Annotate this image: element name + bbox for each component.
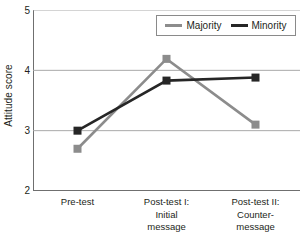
x-tick-label-pre-test: Pre-test bbox=[33, 196, 122, 209]
legend-item-minority: Minority bbox=[231, 21, 287, 31]
y-tick-label-4: 4 bbox=[16, 66, 30, 76]
legend: Majority Minority bbox=[156, 15, 296, 36]
series-lines bbox=[78, 59, 256, 149]
y-tick-label-5: 5 bbox=[16, 6, 30, 16]
y-tick-label-3: 3 bbox=[16, 126, 30, 136]
x-tick-label-post-test-2: Post-test II: Counter- message bbox=[211, 196, 300, 234]
line-chart: Attitude score 5 4 3 2 Pre-test Post-tes… bbox=[0, 0, 308, 244]
plot-canvas bbox=[33, 10, 300, 191]
y-axis-tick-labels: 5 4 3 2 bbox=[14, 0, 30, 244]
legend-swatch-minority bbox=[231, 24, 248, 27]
legend-swatch-majority bbox=[165, 24, 182, 27]
legend-label-majority: Majority bbox=[186, 21, 221, 31]
y-axis-title-text: Attitude score bbox=[3, 64, 14, 127]
y-tick-label-2: 2 bbox=[16, 186, 30, 196]
x-tick-label-post-test-1: Post-test I: Initial message bbox=[122, 196, 211, 234]
series-markers bbox=[74, 55, 260, 153]
legend-item-majority: Majority bbox=[165, 21, 221, 31]
legend-label-minority: Minority bbox=[252, 21, 287, 31]
